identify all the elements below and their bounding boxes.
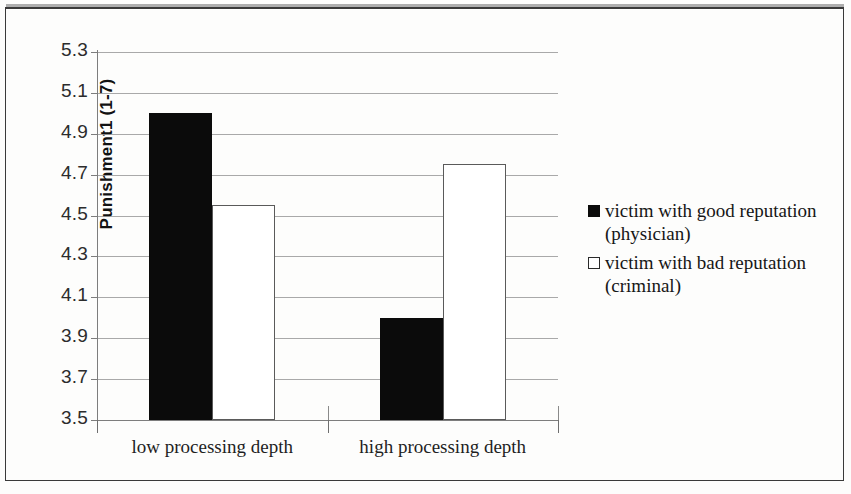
gridline bbox=[97, 93, 558, 94]
y-axis-tick-label: 3.7 bbox=[61, 366, 88, 388]
legend-label-bad-reputation: victim with bad reputation (criminal) bbox=[605, 251, 806, 297]
y-axis-tick-label: 4.1 bbox=[61, 284, 88, 306]
x-axis-category-label: high processing depth bbox=[328, 436, 559, 458]
y-axis-tick-label: 4.7 bbox=[61, 162, 88, 184]
y-axis-tick-label: 4.5 bbox=[61, 203, 88, 225]
bar bbox=[380, 318, 443, 420]
legend-label-good-reputation: victim with good reputation (physician) bbox=[605, 199, 817, 245]
legend-item-good-reputation: victim with good reputation (physician) bbox=[588, 199, 838, 245]
legend-label-good-reputation-line2: (physician) bbox=[605, 222, 817, 245]
y-axis-tick-label: 3.9 bbox=[61, 325, 88, 347]
y-axis-tick-label: 4.9 bbox=[61, 121, 88, 143]
y-axis-line bbox=[97, 50, 98, 422]
y-axis-tick-label: 5.1 bbox=[61, 80, 88, 102]
legend-label-bad-reputation-line1: victim with bad reputation bbox=[605, 252, 806, 273]
legend: victim with good reputation (physician) … bbox=[588, 199, 838, 303]
x-axis-category-label: low processing depth bbox=[97, 436, 328, 458]
x-axis-category-separator bbox=[97, 420, 98, 433]
y-axis-tick-label: 4.3 bbox=[61, 243, 88, 265]
x-axis-tick bbox=[558, 406, 559, 421]
legend-label-good-reputation-line1: victim with good reputation bbox=[605, 200, 817, 221]
x-axis-tick bbox=[328, 406, 329, 421]
bar bbox=[149, 113, 212, 420]
gridline bbox=[97, 52, 558, 53]
y-axis-tick-label: 3.5 bbox=[61, 407, 88, 429]
x-axis-category-separator bbox=[328, 420, 329, 433]
legend-label-bad-reputation-line2: (criminal) bbox=[605, 274, 806, 297]
x-axis-category-separator bbox=[558, 420, 559, 433]
legend-item-bad-reputation: victim with bad reputation (criminal) bbox=[588, 251, 838, 297]
bar bbox=[212, 205, 275, 420]
legend-swatch-filled-square-icon bbox=[588, 205, 600, 217]
bar bbox=[443, 164, 506, 420]
bar-chart-figure: Punishment1 (1-7) 5.35.14.94.74.54.34.13… bbox=[0, 0, 851, 494]
legend-swatch-open-square-icon bbox=[588, 257, 600, 269]
y-axis-tick-label: 5.3 bbox=[61, 39, 88, 61]
